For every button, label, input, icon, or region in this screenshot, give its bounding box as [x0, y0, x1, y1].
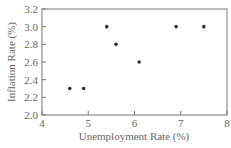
data-point	[105, 25, 109, 29]
data-point	[114, 43, 118, 47]
y-tick-label: 2.4	[24, 74, 38, 86]
x-axis-label: Unemployment Rate (%)	[79, 130, 190, 143]
y-tick-label: 2.6	[24, 56, 38, 68]
data-point	[82, 87, 86, 91]
x-tick-label: 5	[86, 117, 92, 129]
y-tick-label: 2.0	[24, 109, 38, 121]
data-point	[174, 25, 178, 29]
scatter-chart: 2.02.22.42.62.83.03.2 45678 Unemployment…	[0, 0, 231, 148]
data-point	[68, 87, 72, 91]
y-tick-label: 3.2	[24, 3, 38, 15]
plot-frame	[42, 9, 227, 115]
x-tick-label: 4	[39, 117, 45, 129]
data-point	[202, 25, 206, 29]
y-axis-ticks: 2.02.22.42.62.83.03.2	[24, 3, 46, 121]
data-points	[68, 25, 206, 90]
x-axis-ticks: 45678	[39, 111, 230, 129]
x-tick-label: 7	[178, 117, 184, 129]
x-tick-label: 8	[224, 117, 230, 129]
y-axis-label: Inflation Rate (%)	[5, 22, 18, 102]
x-tick-label: 6	[132, 117, 138, 129]
y-tick-label: 2.8	[24, 38, 38, 50]
y-tick-label: 3.0	[24, 21, 38, 33]
data-point	[137, 60, 141, 64]
y-tick-label: 2.2	[24, 91, 38, 103]
